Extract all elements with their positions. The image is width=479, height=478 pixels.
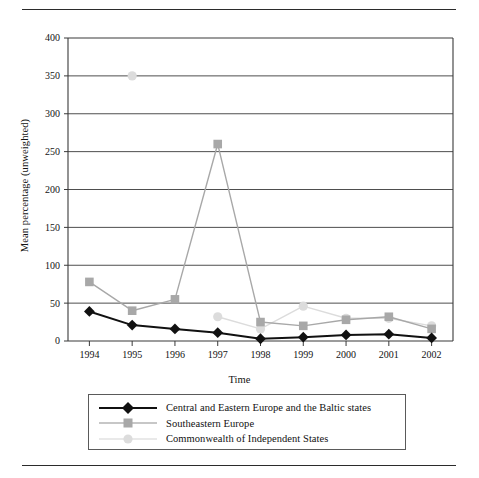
data-point-marker	[299, 302, 308, 311]
series-1	[85, 140, 436, 333]
data-point-marker	[299, 322, 308, 331]
y-tick-label: 350	[45, 70, 60, 81]
line-chart-svg: 0501001502002503003504001994199519961997…	[0, 0, 479, 400]
y-tick-label: 150	[45, 222, 60, 233]
x-tick-label: 1999	[293, 349, 313, 360]
data-point-marker	[255, 333, 266, 344]
data-point-marker	[170, 323, 181, 334]
y-axis-title: Mean percentage (unweighted)	[19, 96, 30, 276]
data-point-marker	[85, 278, 94, 287]
data-point-marker	[256, 318, 265, 327]
legend-label-cis: Commonwealth of Independent States	[166, 433, 328, 444]
legend-item-cis: Commonwealth of Independent States	[89, 431, 405, 447]
figure-container: 0501001502002503003504001994199519961997…	[0, 0, 479, 478]
data-point-marker	[213, 312, 222, 321]
y-tick-label: 200	[45, 184, 60, 195]
data-point-marker	[213, 140, 222, 149]
x-tick-label: 1995	[122, 349, 142, 360]
data-point-marker	[128, 306, 137, 315]
data-point-marker	[385, 312, 394, 321]
data-point-marker	[84, 306, 95, 317]
data-point-marker	[128, 71, 137, 80]
plot-area-wrapper: 0501001502002503003504001994199519961997…	[0, 0, 479, 400]
legend-item-see: Southeastern Europe	[89, 416, 405, 432]
legend-swatch-diamond-icon	[97, 401, 159, 415]
y-tick-label: 250	[45, 146, 60, 157]
x-axis-title: Time	[0, 374, 479, 385]
data-point-marker	[383, 329, 394, 340]
y-tick-label: 0	[55, 335, 60, 346]
chart-legend: Central and Eastern Europe and the Balti…	[88, 394, 406, 450]
legend-swatch-square-icon	[97, 416, 159, 430]
y-tick-label: 400	[45, 32, 60, 43]
y-tick-label: 300	[45, 108, 60, 119]
data-point-marker	[426, 333, 437, 344]
x-tick-label: 1997	[208, 349, 228, 360]
x-tick-label: 1996	[165, 349, 185, 360]
legend-label-see: Southeastern Europe	[166, 418, 254, 429]
data-point-marker	[212, 327, 223, 338]
legend-item-cee: Central and Eastern Europe and the Balti…	[89, 400, 405, 416]
gridlines: 050100150200250300350400	[45, 32, 453, 346]
x-tick-label: 2001	[379, 349, 399, 360]
data-point-marker	[427, 325, 436, 334]
x-tick-label: 1994	[79, 349, 99, 360]
x-tick-label: 2002	[422, 349, 442, 360]
data-point-marker	[341, 330, 352, 341]
series-2	[128, 71, 437, 333]
y-tick-label: 50	[50, 298, 60, 309]
y-tick-label: 100	[45, 260, 60, 271]
data-point-marker	[171, 295, 180, 304]
data-point-marker	[342, 315, 351, 324]
legend-swatch-circle-icon	[97, 432, 159, 446]
legend-label-cee: Central and Eastern Europe and the Balti…	[166, 402, 371, 413]
bottom-horizontal-rule	[22, 465, 456, 466]
x-tick-label: 2000	[336, 349, 356, 360]
data-point-marker	[127, 320, 138, 331]
x-tick-label: 1998	[251, 349, 271, 360]
